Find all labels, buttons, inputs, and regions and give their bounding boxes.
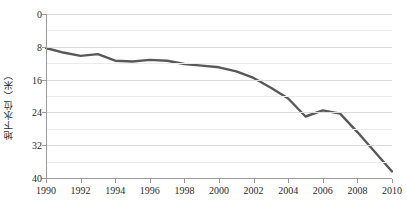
y-axis-tick-label: 40 bbox=[6, 173, 46, 184]
x-axis-tick-label: 1996 bbox=[140, 185, 160, 196]
gridline-minor bbox=[46, 63, 392, 64]
gridline-major bbox=[46, 14, 392, 15]
gridline-major bbox=[46, 47, 392, 48]
x-axis-tick-mark bbox=[46, 179, 47, 183]
y-axis-line bbox=[46, 14, 47, 178]
x-axis-tick-label: 2000 bbox=[209, 185, 229, 196]
groundwater-level-line-chart: 地下水位（米） 0816243240 199019921994199619982… bbox=[0, 0, 407, 209]
groundwater-series-polyline bbox=[46, 48, 392, 171]
x-axis-tick-mark bbox=[392, 179, 393, 183]
gridline-minor bbox=[46, 96, 392, 97]
x-axis-tick-label: 2002 bbox=[244, 185, 264, 196]
x-axis-tick-label: 2010 bbox=[382, 185, 402, 196]
y-axis-tick-mark bbox=[42, 145, 46, 146]
y-axis-tick-label: 24 bbox=[6, 107, 46, 118]
x-axis-tick-mark bbox=[81, 179, 82, 183]
x-axis-tick-label: 2008 bbox=[347, 185, 367, 196]
plot-area bbox=[46, 14, 392, 178]
x-axis-tick-mark bbox=[288, 179, 289, 183]
gridline-major bbox=[46, 80, 392, 81]
x-axis-tick-mark bbox=[115, 179, 116, 183]
gridline-minor bbox=[46, 129, 392, 130]
y-axis-tick-label: 16 bbox=[6, 74, 46, 85]
y-axis-tick-label: 0 bbox=[6, 9, 46, 20]
x-axis-tick-label: 1998 bbox=[174, 185, 194, 196]
gridline-minor bbox=[46, 30, 392, 31]
gridline-major bbox=[46, 112, 392, 113]
x-axis-tick-label: 1990 bbox=[36, 185, 56, 196]
gridline-major bbox=[46, 145, 392, 146]
x-axis-tick-mark bbox=[219, 179, 220, 183]
y-axis-tick-mark bbox=[42, 112, 46, 113]
y-axis-tick-label: 32 bbox=[6, 140, 46, 151]
y-axis-tick-mark bbox=[42, 80, 46, 81]
x-axis-tick-label: 2006 bbox=[313, 185, 333, 196]
x-axis-tick-label: 1994 bbox=[105, 185, 125, 196]
x-axis-tick-mark bbox=[184, 179, 185, 183]
x-axis-tick-label: 1992 bbox=[71, 185, 91, 196]
y-axis-tick-label: 8 bbox=[6, 41, 46, 52]
x-axis-tick-mark bbox=[323, 179, 324, 183]
gridline-minor bbox=[46, 162, 392, 163]
y-axis-tick-mark bbox=[42, 14, 46, 15]
x-axis-tick-mark bbox=[357, 179, 358, 183]
y-axis-tick-labels: 0816243240 bbox=[0, 0, 46, 209]
x-axis-tick-mark bbox=[254, 179, 255, 183]
x-axis-tick-label: 2004 bbox=[278, 185, 298, 196]
x-axis-tick-mark bbox=[150, 179, 151, 183]
y-axis-tick-mark bbox=[42, 47, 46, 48]
